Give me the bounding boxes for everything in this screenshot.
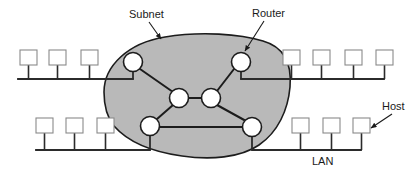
host-tr-1[interactable] [283, 50, 300, 65]
host-tl-1[interactable] [20, 50, 37, 65]
host-bl-3[interactable] [97, 118, 114, 133]
router-top-right[interactable] [232, 53, 251, 72]
host-bl-2[interactable] [66, 118, 83, 133]
host-callout: Host [371, 100, 405, 128]
host-tr-3[interactable] [345, 50, 362, 65]
lan-label-text: LAN [312, 155, 333, 167]
router-top-left[interactable] [124, 53, 143, 72]
subnet-callout: Subnet [129, 8, 164, 39]
subnet-callout-text: Subnet [129, 8, 164, 20]
router-bottom-right[interactable] [243, 118, 262, 137]
lan-label: LAN [312, 155, 333, 167]
host-br-3[interactable] [353, 118, 370, 133]
host-callout-text: Host [382, 100, 405, 112]
diagram-canvas: SubnetRouterHostLAN [0, 0, 414, 176]
host-tr-2[interactable] [313, 50, 330, 65]
router-bottom-left[interactable] [141, 117, 160, 136]
router-mid-left[interactable] [170, 89, 189, 108]
subnet-callout-arrow [149, 22, 161, 39]
host-tl-2[interactable] [49, 50, 66, 65]
router-mid-right[interactable] [202, 89, 221, 108]
network-diagram: SubnetRouterHostLAN [0, 0, 414, 176]
host-tl-3[interactable] [81, 50, 98, 65]
router-callout-text: Router [252, 7, 285, 19]
host-tr-4[interactable] [376, 50, 393, 65]
host-br-2[interactable] [323, 118, 340, 133]
host-callout-arrow [371, 114, 392, 128]
host-bl-1[interactable] [36, 118, 53, 133]
host-br-1[interactable] [292, 118, 309, 133]
